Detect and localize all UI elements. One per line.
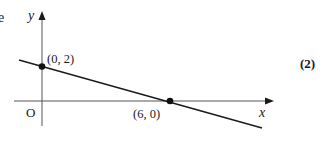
x-axis-label: x: [258, 105, 266, 120]
origin-label: O: [26, 105, 35, 120]
y-axis-label: y: [26, 8, 35, 23]
partial-text: e: [0, 10, 4, 25]
x-axis-arrow-icon: [265, 98, 274, 105]
x-axis: [14, 98, 274, 105]
point-label-x-intercept: (6, 0): [133, 107, 160, 121]
marks-label: (2): [300, 56, 315, 71]
y-axis-arrow-icon: [39, 11, 46, 20]
point-x-intercept-icon: [167, 98, 174, 105]
point-label-y-intercept: (0, 2): [47, 52, 74, 66]
point-y-intercept-icon: [39, 63, 46, 70]
graph-diagram: e y x O (0, 2) (6, 0) (2): [0, 0, 330, 141]
